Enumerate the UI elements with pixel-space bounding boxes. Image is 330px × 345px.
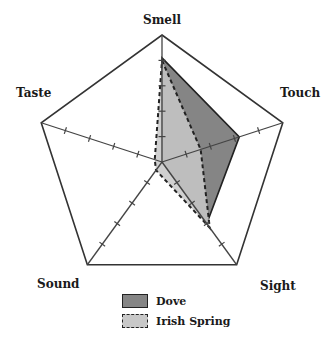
axis-label-smell: Smell: [143, 13, 181, 27]
legend-item-irish-spring: Irish Spring: [122, 311, 230, 331]
axis-label-taste: Taste: [16, 86, 52, 100]
axis-label-sound: Sound: [37, 277, 80, 291]
legend-label-irish-spring: Irish Spring: [156, 315, 230, 328]
radar-series: [155, 58, 240, 228]
irish-spring-swatch-icon: [122, 314, 148, 328]
legend-label-dove: Dove: [156, 295, 186, 308]
axis-label-sight: Sight: [260, 279, 296, 293]
radar-axes: [41, 35, 283, 265]
legend: Dove Irish Spring: [122, 291, 230, 331]
dove-swatch-icon: [122, 294, 148, 308]
axis-label-touch: Touch: [280, 86, 320, 100]
legend-item-dove: Dove: [122, 291, 230, 311]
